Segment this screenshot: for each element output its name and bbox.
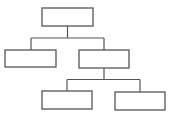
node-child-left [5,50,56,67]
connectors-level-2 [67,68,140,92]
node-root [42,8,93,26]
node-grandchild-right [115,92,165,110]
node-child-right [79,50,129,68]
connectors-level-1 [31,26,104,50]
tree-diagram [0,0,171,120]
node-grandchild-left [42,91,92,109]
